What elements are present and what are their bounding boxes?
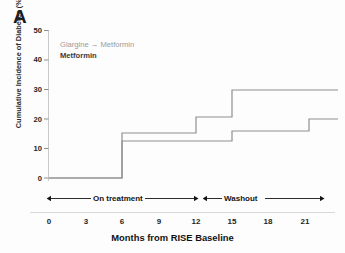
x-tick-label: 0 [39,217,59,226]
x-tick-label: 3 [76,217,96,226]
x-tick-label: 15 [222,217,242,226]
x-tick-label: 6 [112,217,132,226]
x-tick-label: 9 [149,217,169,226]
x-axis-label: Months from RISE Baseline [0,232,345,243]
x-tick-label: 18 [258,217,278,226]
period-arrows [0,0,345,253]
x-tick-label: 12 [186,217,206,226]
figure-panel: A Cumulative Incidence of Diabetes (%) 5… [0,0,345,253]
x-tick-label: 21 [295,217,315,226]
annotation-on-treatment: On treatment [93,194,143,203]
annotation-washout: Washout [224,194,257,203]
